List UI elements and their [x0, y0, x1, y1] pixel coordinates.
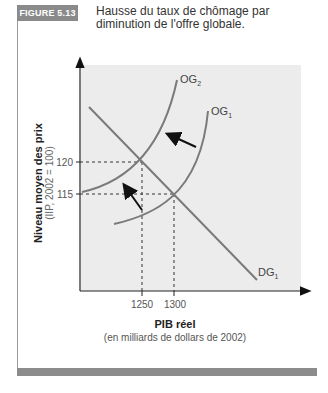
plot-area	[81, 65, 301, 291]
x-axis-subtitle: (en milliards de dollars de 2002)	[80, 331, 270, 344]
x-tick-1300: 1300	[164, 299, 187, 310]
y-axis-subtitle: (IIP, 2002 = 100)	[44, 123, 56, 243]
x-tick-1250: 1250	[131, 299, 154, 310]
x-axis-label: PIB réel (en milliards de dollars de 200…	[80, 318, 270, 344]
y-axis-label: Niveau moyen des prix (IIP, 2002 = 100)	[18, 110, 70, 255]
y-axis-title: Niveau moyen des prix	[32, 123, 44, 243]
x-axis-title: PIB réel	[80, 318, 270, 331]
bottom-rule	[17, 368, 317, 376]
